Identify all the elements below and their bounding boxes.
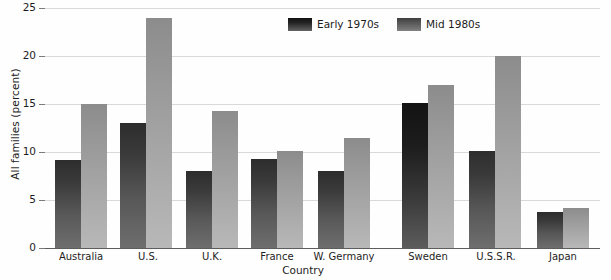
- gridline: [44, 8, 600, 9]
- bar: [318, 171, 344, 248]
- bar: [212, 111, 238, 248]
- legend-label-early-1970s: Early 1970s: [317, 18, 379, 30]
- y-axis-tick: [39, 104, 45, 105]
- bar: [495, 56, 521, 248]
- y-axis-tick-label: 10: [10, 145, 36, 157]
- y-axis-title: All families (percent): [9, 49, 21, 199]
- bar: [563, 208, 589, 248]
- bar: [428, 85, 454, 248]
- bar: [146, 18, 172, 248]
- bar: [120, 123, 146, 248]
- legend-swatch-mid-1980s: [397, 18, 421, 31]
- gridline: [44, 248, 600, 249]
- bar: [55, 160, 81, 248]
- y-axis-tick: [39, 200, 45, 201]
- y-axis-tick-label: 20: [10, 49, 36, 61]
- y-axis-tick-label: 5: [10, 193, 36, 205]
- bar: [277, 151, 303, 248]
- y-axis-tick: [39, 56, 45, 57]
- bar: [469, 151, 495, 248]
- bar: [344, 138, 370, 248]
- legend-swatch-early-1970s: [288, 18, 312, 31]
- y-axis-tick-label: 15: [10, 97, 36, 109]
- y-axis-tick: [39, 248, 45, 249]
- bar: [251, 159, 277, 248]
- plot-area: [44, 8, 600, 248]
- bar: [186, 171, 212, 248]
- bar: [81, 104, 107, 248]
- y-axis-tick-label: 25: [10, 1, 36, 13]
- y-axis-tick: [39, 152, 45, 153]
- bar: [402, 103, 428, 248]
- bar-chart: All families (percent) 0510152025 Austra…: [0, 0, 611, 280]
- x-axis-category-label: Japan: [513, 251, 611, 262]
- bar: [537, 212, 563, 248]
- y-axis-tick: [39, 8, 45, 9]
- legend: Early 1970s Mid 1980s: [288, 17, 480, 31]
- legend-label-mid-1980s: Mid 1980s: [426, 18, 480, 30]
- x-axis-title: Country: [0, 264, 611, 276]
